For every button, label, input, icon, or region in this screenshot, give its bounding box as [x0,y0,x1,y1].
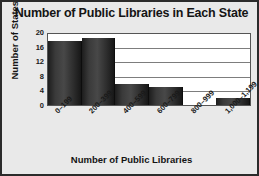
chart-title: Number of Public Libraries in Each State [2,6,259,20]
y-axis-tick-labels: 201612840 [26,27,44,113]
y-tick-5: 0 [26,102,44,110]
bar-slot-0 [48,34,82,105]
y-tick-4: 4 [26,87,44,95]
y-tick-2: 12 [26,58,44,66]
plot-area [47,33,251,106]
x-axis-label: Number of Public Libraries [2,154,259,165]
y-axis-label: Number of States [9,8,20,80]
y-tick-1: 16 [26,44,44,52]
chart-figure: Number of Public Libraries in Each State… [0,0,259,176]
y-tick-0: 20 [26,29,44,37]
x-axis-tick-labels: 0–199200–399400–599600–799800–9991,000–1… [47,107,251,151]
bar-series [48,34,250,105]
y-tick-3: 8 [26,73,44,81]
